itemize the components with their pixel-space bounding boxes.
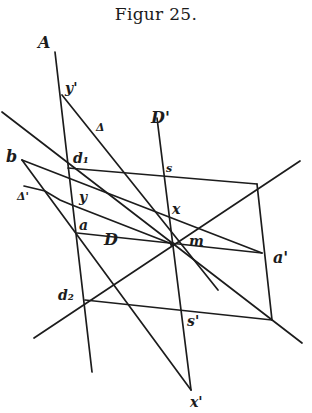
point-m	[170, 242, 174, 246]
figure-drawing: A y' Δ D' b d₁ s Δ' y x a D m a' d₂ s' x…	[0, 0, 312, 413]
label-x: x	[171, 201, 181, 217]
label-d1: d₁	[73, 150, 89, 166]
label-y: y	[78, 189, 88, 205]
line-bottom-side	[85, 300, 272, 320]
label-s: s	[166, 162, 172, 175]
label-A: A	[36, 33, 50, 52]
line-diagonal-1	[2, 112, 302, 343]
label-D: D	[103, 230, 118, 249]
label-d2: d₂	[58, 287, 74, 303]
label-a: a	[79, 217, 88, 233]
label-x-prime: x'	[189, 394, 203, 410]
label-b: b	[6, 147, 17, 166]
label-a-prime: a'	[273, 248, 288, 267]
line-b-x-prime	[22, 160, 191, 390]
geometry-figure: Figur 25. A y' Δ D' b d₁	[0, 0, 312, 413]
label-delta-prime: Δ'	[16, 190, 29, 203]
label-delta: Δ	[95, 121, 105, 134]
label-D-prime: D'	[150, 108, 170, 127]
label-s-prime: s'	[187, 313, 199, 329]
label-y-prime: y'	[64, 80, 77, 96]
line-top-side	[68, 168, 257, 184]
label-m: m	[189, 233, 204, 249]
